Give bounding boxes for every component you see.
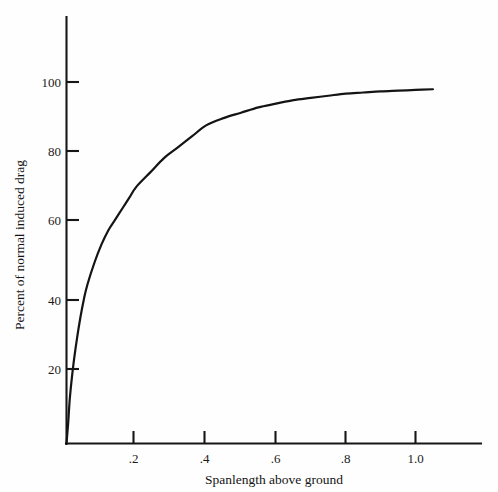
x-tick-label-0.4: .4 [200,451,210,466]
y-tick-label-80: 80 [48,144,61,159]
y-axis-title: Percent of normal induced drag [12,160,27,330]
y-tick-label-100: 100 [42,75,62,90]
y-axis-tick-labels: 100 80 60 40 20 [42,75,62,377]
y-tick-label-40: 40 [48,293,61,308]
y-tick-label-60: 60 [48,213,61,228]
x-axis-ticks [134,431,416,444]
x-tick-label-0.8: .8 [341,451,351,466]
y-axis-ticks [67,82,80,369]
chart-figure: 100 80 60 40 20 .2 .4 .6 .8 1.0 Spanleng… [0,0,498,492]
x-axis-title: Spanlength above ground [205,472,343,487]
x-tick-label-0.2: .2 [129,451,139,466]
y-tick-label-20: 20 [48,362,61,377]
data-curve-induced-drag [67,89,433,443]
x-tick-label-1.0: 1.0 [407,451,423,466]
x-tick-label-0.6: .6 [271,451,281,466]
x-axis-tick-labels: .2 .4 .6 .8 1.0 [129,451,424,466]
chart-canvas: 100 80 60 40 20 .2 .4 .6 .8 1.0 Spanleng… [0,0,498,492]
